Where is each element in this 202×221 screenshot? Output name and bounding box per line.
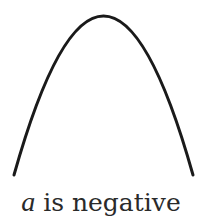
caption-text: is negative (35, 188, 180, 217)
parabola-curve (0, 0, 202, 190)
caption-variable: a (21, 186, 35, 217)
parabola-path (14, 16, 193, 175)
caption: a is negative (0, 186, 202, 219)
parabola-figure: a is negative (0, 0, 202, 221)
